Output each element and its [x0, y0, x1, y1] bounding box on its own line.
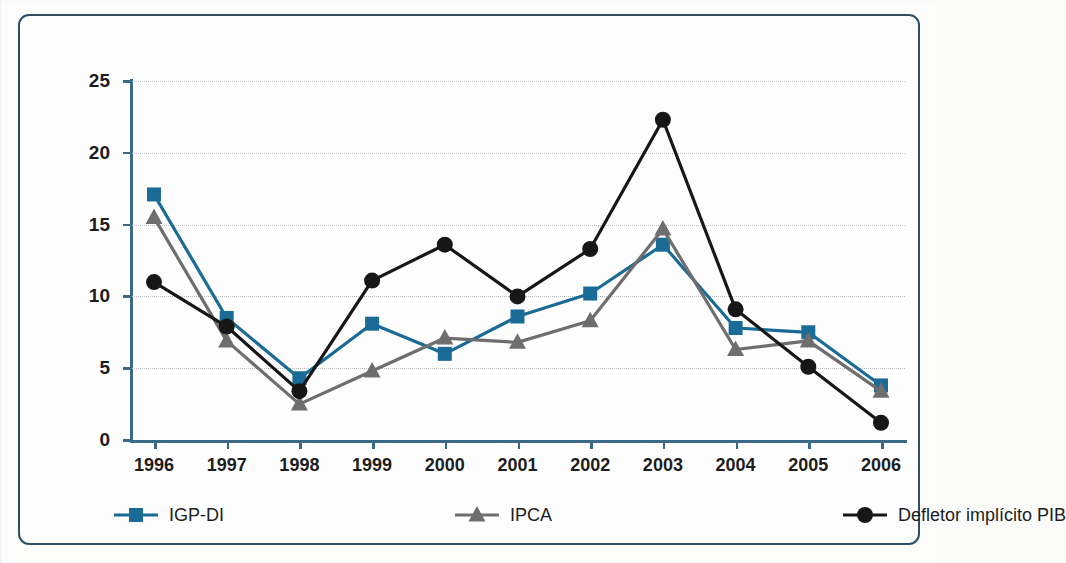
data-point-square: [729, 321, 743, 335]
legend-item-igp-di[interactable]: IGP-DI: [113, 504, 224, 526]
x-axis-tick-label: 2003: [643, 455, 683, 476]
x-axis-tick: [808, 440, 811, 449]
data-point-square: [438, 347, 452, 361]
x-axis-tick-label: 2000: [425, 455, 465, 476]
data-point-square: [583, 287, 597, 301]
data-point-circle: [857, 507, 873, 523]
legend-item-defletor-impl-cito-pib[interactable]: Defletor implícito PIB: [842, 504, 1066, 526]
x-axis-tick: [227, 440, 230, 449]
legend-swatch-triangle: [454, 504, 500, 526]
legend-swatch-square: [113, 504, 159, 526]
x-axis-tick-label: 1998: [279, 455, 319, 476]
x-axis-tick: [445, 440, 448, 449]
x-axis-tick-label: 1999: [352, 455, 392, 476]
y-axis-tick-label: 0: [99, 429, 110, 451]
x-axis-tick-label: 2001: [497, 455, 537, 476]
data-point-triangle: [654, 220, 671, 236]
data-point-circle: [510, 288, 526, 304]
series-line: [154, 120, 881, 423]
x-axis-tick-label: 2002: [570, 455, 610, 476]
x-axis-tick: [299, 440, 302, 449]
data-point-square: [129, 508, 143, 522]
legend-item-ipca[interactable]: IPCA: [454, 504, 552, 526]
series-defletor-impl-cito-pib: [146, 112, 889, 431]
legend-label: IGP-DI: [169, 505, 224, 526]
x-axis-tick: [881, 440, 884, 449]
legend-label: IPCA: [510, 505, 552, 526]
figure-frame: 0510152025 19961997199819992000200120022…: [18, 14, 920, 545]
data-point-square: [147, 187, 161, 201]
y-axis-tick-label: 15: [89, 214, 110, 236]
data-series-layer: [130, 81, 905, 440]
x-axis-tick: [736, 440, 739, 449]
data-point-circle: [582, 241, 598, 257]
data-point-circle: [655, 112, 671, 128]
data-point-circle: [437, 237, 453, 253]
data-point-triangle: [146, 208, 163, 224]
x-axis-tick: [154, 440, 157, 449]
x-axis-tick: [663, 440, 666, 449]
x-axis-tick-label: 1997: [207, 455, 247, 476]
x-axis-tick-label: 1996: [134, 455, 174, 476]
legend-swatch-circle: [842, 504, 888, 526]
y-axis-tick-label: 5: [99, 357, 110, 379]
x-axis-tick-label: 2006: [861, 455, 901, 476]
x-axis-tick-label: 2005: [788, 455, 828, 476]
x-axis-tick: [372, 440, 375, 449]
data-point-circle: [146, 274, 162, 290]
x-axis-tick: [590, 440, 593, 449]
data-point-circle: [219, 319, 235, 335]
x-axis-tick-label: 2004: [716, 455, 756, 476]
data-point-circle: [800, 359, 816, 375]
data-point-square: [511, 310, 525, 324]
y-axis-tick-label: 10: [89, 285, 110, 307]
data-point-circle: [364, 273, 380, 289]
data-point-square: [365, 317, 379, 331]
legend-label: Defletor implícito PIB: [898, 505, 1066, 526]
y-axis-tick-label: 20: [89, 142, 110, 164]
data-point-circle: [728, 301, 744, 317]
y-axis-tick-label: 25: [89, 70, 110, 92]
plot-area: 0510152025 19961997199819992000200120022…: [130, 81, 905, 440]
x-axis-tick: [518, 440, 521, 449]
data-point-circle: [873, 415, 889, 431]
chart-legend: IGP-DIIPCADefletor implícito PIB: [113, 504, 1066, 526]
data-point-circle: [291, 383, 307, 399]
